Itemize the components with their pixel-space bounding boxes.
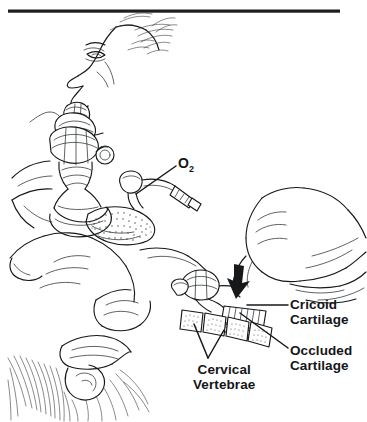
label-occluded-line2: Cartilage <box>290 358 352 373</box>
rescuer-hand-left <box>10 233 151 369</box>
patient-head <box>30 25 159 135</box>
label-cricoid-cartilage: Cricoid Cartilage <box>290 297 349 327</box>
soft-tissue-stipple <box>86 207 155 245</box>
label-oxygen: O2 <box>178 156 194 172</box>
label-cervical-line1: Cervical <box>193 362 255 377</box>
label-cervical-vertebrae: Cervical Vertebrae <box>193 362 255 392</box>
label-oxygen-subscript: 2 <box>189 164 194 174</box>
rescuer-hand-right <box>233 187 366 302</box>
label-occluded-cartilage: Occluded Cartilage <box>290 343 352 373</box>
bag-valve-mask-device <box>50 102 114 237</box>
figure-panel: O2 Cricoid Cartilage Occluded Cartilage … <box>0 0 367 422</box>
label-cricoid-line1: Cricoid <box>290 297 349 312</box>
cricoid-pressure-arrow <box>227 264 250 299</box>
rescuer-sleeve-left <box>12 161 52 228</box>
patient-ear-and-hair <box>8 356 149 421</box>
label-occluded-line1: Occluded <box>290 343 352 358</box>
label-oxygen-text: O <box>178 155 189 171</box>
patient-hair-top <box>110 13 177 54</box>
label-cricoid-line2: Cartilage <box>290 312 349 327</box>
top-divider-rule <box>8 10 340 13</box>
label-cervical-line2: Vertebrae <box>193 377 255 392</box>
cricoid-cartilage-structure <box>171 270 224 312</box>
